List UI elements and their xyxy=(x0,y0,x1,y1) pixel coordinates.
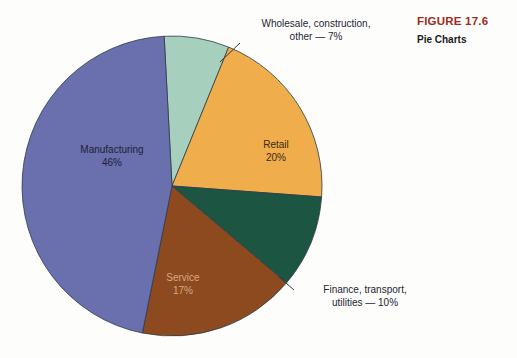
pie-callout-finance-line2: utilities — 10% xyxy=(332,297,398,308)
figure-title: Pie Charts xyxy=(417,33,513,47)
figure-caption: FIGURE 17.6 Pie Charts xyxy=(417,14,513,47)
pie-callout-finance: Finance, transport, utilities — 10% xyxy=(292,284,438,309)
pie-slice-manufacturing[interactable] xyxy=(22,36,172,333)
pie-callout-wholesale-line2: other — 7% xyxy=(290,31,343,42)
pie-callout-finance-line1: Finance, transport, xyxy=(323,284,406,295)
figure-number: FIGURE 17.6 xyxy=(417,14,513,28)
pie-slices xyxy=(22,36,322,336)
pie-callout-wholesale-line1: Wholesale, construction, xyxy=(262,18,371,29)
figure-container: Manufacturing 46% Retail 20% Service 17%… xyxy=(0,0,517,358)
pie-callout-wholesale: Wholesale, construction, other — 7% xyxy=(236,18,396,43)
